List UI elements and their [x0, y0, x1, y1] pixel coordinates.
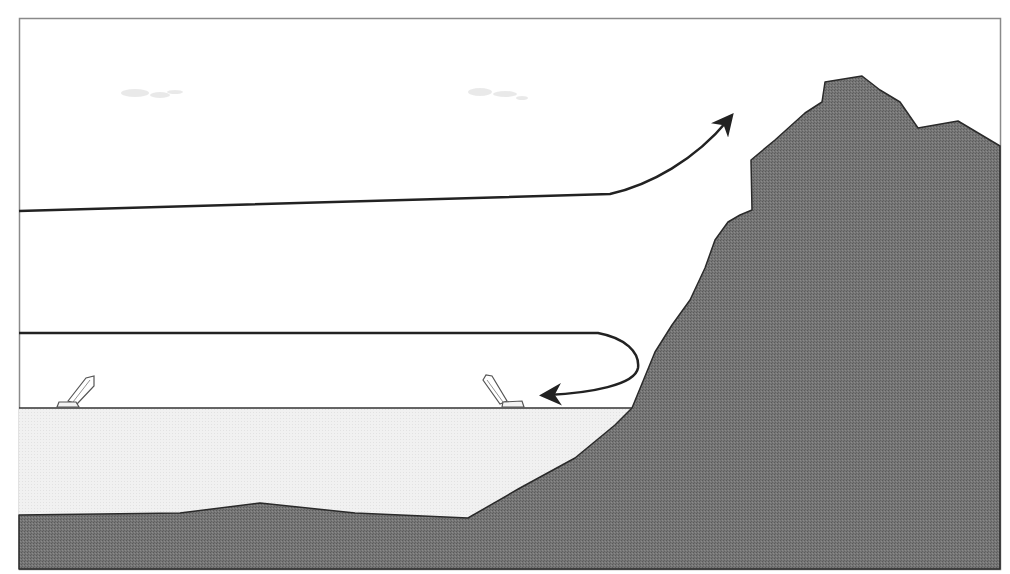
coastal-wind-diagram: [0, 0, 1010, 574]
diagram-stage: Coastal wind flow over sea and mountain …: [0, 0, 1010, 574]
hull-icon: [502, 401, 524, 407]
hull-icon: [57, 402, 79, 407]
